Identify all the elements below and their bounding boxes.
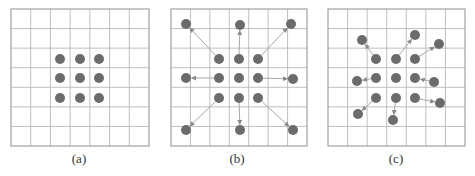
offset-arrow bbox=[420, 79, 429, 81]
offset-sampling-point bbox=[288, 74, 298, 84]
sampling-point bbox=[391, 93, 401, 103]
offset-arrow bbox=[190, 101, 215, 126]
offset-arrow bbox=[420, 99, 435, 102]
offset-arrow bbox=[263, 78, 288, 79]
panel-c bbox=[328, 9, 465, 146]
sampling-point bbox=[253, 54, 263, 64]
offset-sampling-point bbox=[352, 76, 362, 86]
panel-b bbox=[171, 9, 307, 146]
offset-sampling-point bbox=[235, 125, 245, 135]
sampling-point bbox=[214, 54, 224, 64]
offset-sampling-point bbox=[353, 109, 363, 119]
sampling-point bbox=[371, 93, 381, 103]
offset-arrow bbox=[239, 30, 240, 54]
offset-arrow bbox=[262, 101, 289, 126]
sampling-point bbox=[75, 54, 85, 64]
offset-sampling-point bbox=[357, 35, 367, 45]
sampling-point bbox=[55, 93, 65, 103]
caption-a: (a) bbox=[59, 151, 99, 167]
sampling-point bbox=[234, 93, 244, 103]
panel-a bbox=[11, 9, 149, 146]
sampling-point bbox=[391, 54, 401, 64]
caption-b: (b) bbox=[217, 151, 257, 167]
offset-arrow bbox=[365, 44, 373, 55]
panels-group bbox=[11, 9, 465, 146]
offset-arrow bbox=[399, 39, 411, 55]
sampling-point bbox=[94, 93, 104, 103]
sampling-point bbox=[371, 54, 381, 64]
sampling-point bbox=[410, 73, 420, 83]
offset-sampling-point bbox=[410, 30, 420, 40]
offset-arrow bbox=[362, 79, 371, 80]
offset-sampling-point bbox=[181, 73, 191, 83]
sampling-point bbox=[55, 54, 65, 64]
sampling-point bbox=[75, 73, 85, 83]
sampling-point bbox=[410, 93, 420, 103]
offset-arrow bbox=[394, 103, 396, 115]
figure-canvas bbox=[0, 0, 475, 176]
sampling-point bbox=[75, 93, 85, 103]
offset-arrow bbox=[261, 28, 287, 55]
offset-sampling-point bbox=[429, 77, 439, 87]
sampling-point bbox=[234, 54, 244, 64]
sampling-point bbox=[253, 73, 263, 83]
offset-arrow bbox=[239, 103, 240, 125]
sampling-point bbox=[371, 73, 381, 83]
offset-sampling-point bbox=[181, 19, 191, 29]
sampling-point bbox=[214, 73, 224, 83]
offset-arrow bbox=[190, 28, 216, 55]
offset-sampling-point bbox=[181, 125, 191, 135]
sampling-point bbox=[55, 73, 65, 83]
offset-sampling-point bbox=[435, 98, 445, 108]
offset-sampling-point bbox=[235, 20, 245, 30]
offset-sampling-point bbox=[434, 39, 444, 49]
offset-sampling-point bbox=[288, 125, 298, 135]
sampling-point bbox=[391, 73, 401, 83]
caption-c: (c) bbox=[376, 151, 416, 167]
offset-sampling-point bbox=[286, 19, 296, 29]
sampling-point bbox=[253, 93, 263, 103]
sampling-point bbox=[234, 73, 244, 83]
offset-sampling-point bbox=[388, 115, 398, 125]
sampling-point bbox=[214, 93, 224, 103]
sampling-point bbox=[410, 54, 420, 64]
sampling-point bbox=[94, 73, 104, 83]
sampling-point bbox=[94, 54, 104, 64]
